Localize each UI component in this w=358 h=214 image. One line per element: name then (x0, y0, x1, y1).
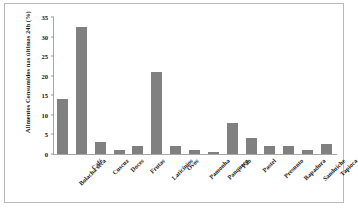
bar (246, 138, 257, 154)
y-axis-tick-label: 10 (41, 111, 48, 118)
bars-layer (53, 17, 336, 154)
bar (189, 150, 200, 154)
y-axis-tick-mark (51, 17, 54, 18)
bar (114, 150, 125, 154)
y-axis-tick-label: 25 (41, 53, 48, 60)
bar (227, 123, 238, 154)
y-axis-tick-label: 0 (45, 151, 48, 158)
y-axis-tick-mark (51, 75, 54, 76)
y-axis-tick-label: 15 (41, 92, 48, 99)
bar (76, 27, 87, 154)
y-axis-tick-label: 5 (45, 131, 48, 138)
y-axis-tick-label: 35 (41, 14, 48, 21)
y-axis-tick-mark (51, 114, 54, 115)
y-axis-tick-mark (51, 36, 54, 37)
bar (57, 99, 68, 154)
x-axis-tick-label: Pastel (261, 157, 278, 174)
bar (170, 146, 181, 154)
y-axis-tick-label: 30 (41, 33, 48, 40)
bar (132, 146, 143, 154)
y-axis-tick-mark (51, 154, 54, 155)
y-axis-tick-labels: 05101520253035 (31, 17, 51, 154)
bar (302, 150, 313, 154)
bar (264, 146, 275, 154)
y-axis-tick-mark (51, 134, 54, 135)
bar (95, 142, 106, 154)
x-axis-tick-label: Cuscuz (111, 157, 130, 176)
bar (321, 144, 332, 154)
y-axis-tick-mark (51, 95, 54, 96)
bar (283, 146, 294, 154)
bar (151, 72, 162, 154)
x-axis-tick-label: Frutas (148, 157, 166, 175)
y-axis-tick-label: 20 (41, 72, 48, 79)
plot-area (53, 17, 336, 154)
bar (208, 152, 219, 154)
y-axis-tick-mark (51, 56, 54, 57)
x-axis-tick-label: Doces (129, 157, 145, 173)
figure-frame: Alimentos Consumidos nas últimas 24h (%)… (4, 3, 344, 203)
x-axis-tick-labels: Bolacha secaCaféCuscuzDocesFrutasLaticín… (53, 155, 337, 205)
